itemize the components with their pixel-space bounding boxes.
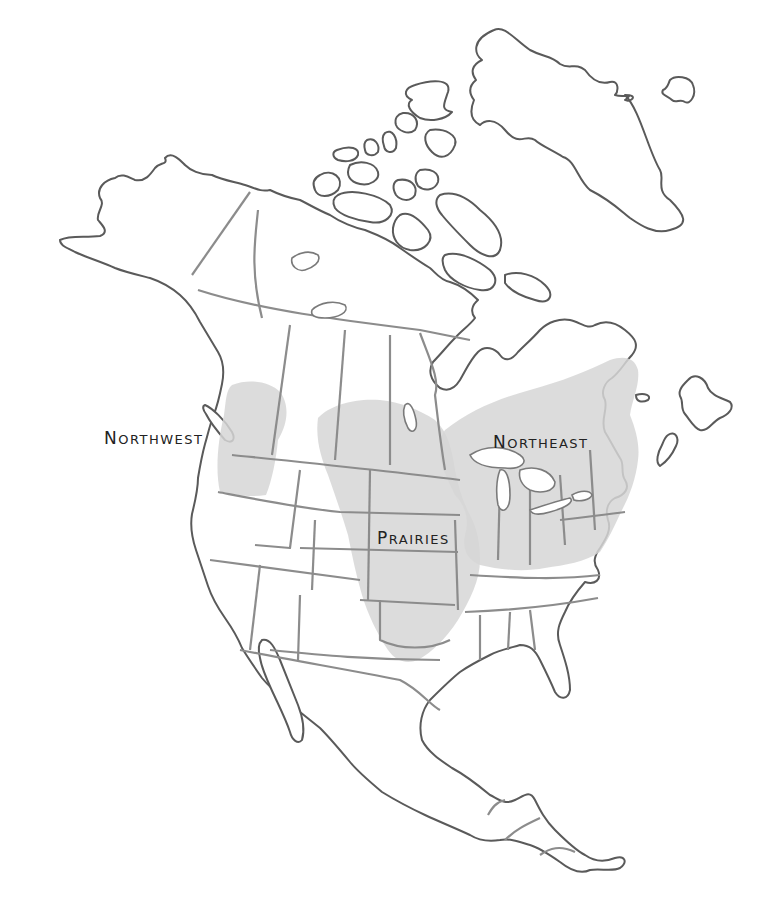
label-northeast: NORTHEAST	[493, 432, 589, 452]
label-northwest-rest: ORTHWEST	[118, 432, 203, 447]
newfoundland	[680, 376, 732, 430]
anticosti	[636, 394, 649, 402]
north-america-map	[0, 0, 781, 922]
nova-scotia-island	[657, 433, 677, 466]
label-prairies: PRAIRIES	[377, 528, 450, 548]
label-prairies-rest: RAIRIES	[389, 532, 450, 547]
greenland	[470, 29, 683, 231]
label-northwest: NORTHWEST	[104, 428, 204, 448]
label-northeast-rest: ORTHEAST	[507, 436, 588, 451]
iceland	[662, 77, 694, 103]
lake-michigan	[497, 470, 510, 510]
label-northwest-initial: N	[104, 428, 118, 448]
label-northeast-initial: N	[493, 432, 507, 452]
label-prairies-initial: P	[377, 528, 389, 548]
